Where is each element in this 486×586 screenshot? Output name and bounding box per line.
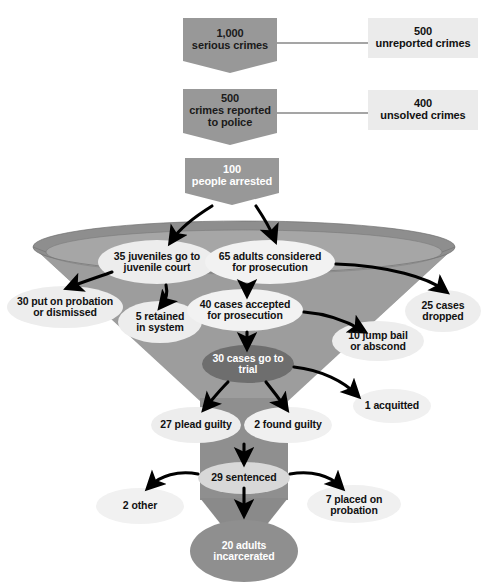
box-unsolved-crimes[interactable]: 400 unsolved crimes [368, 90, 478, 130]
node-other[interactable]: 2 other [96, 490, 184, 522]
box-crimes-reported[interactable]: 500 crimes reported to police [183, 89, 277, 133]
node-plead-guilty[interactable]: 27 plead guilty [151, 408, 241, 442]
node-cases-to-trial[interactable]: 30 cases go to trial [202, 345, 294, 383]
node-placed-probation[interactable]: 7 placed on probation [307, 486, 401, 524]
node-adults-incarcerated[interactable]: 20 adults incarcerated [190, 532, 298, 570]
node-cases-accepted[interactable]: 40 cases accepted for prosecution [187, 289, 303, 331]
node-adults-prosecution[interactable]: 65 adults considered for prosecution [205, 240, 335, 284]
node-sentenced[interactable]: 29 sentenced [198, 463, 290, 493]
box-unreported-crimes[interactable]: 500 unreported crimes [368, 18, 478, 58]
node-jump-bail[interactable]: 10 jump bail or abscond [332, 321, 424, 361]
node-found-guilty[interactable]: 2 found guilty [244, 408, 332, 442]
diagram-canvas: 1,000 serious crimes 500 crimes reported… [0, 0, 486, 586]
node-acquitted[interactable]: 1 acquitted [353, 389, 431, 423]
box-people-arrested[interactable]: 100 people arrested [185, 158, 279, 193]
node-probation-dismissed[interactable]: 30 put on probation or dismissed [7, 286, 123, 328]
node-juveniles-court[interactable]: 35 juveniles go to juvenile court [98, 240, 216, 284]
box-serious-crimes[interactable]: 1,000 serious crimes [183, 18, 277, 61]
